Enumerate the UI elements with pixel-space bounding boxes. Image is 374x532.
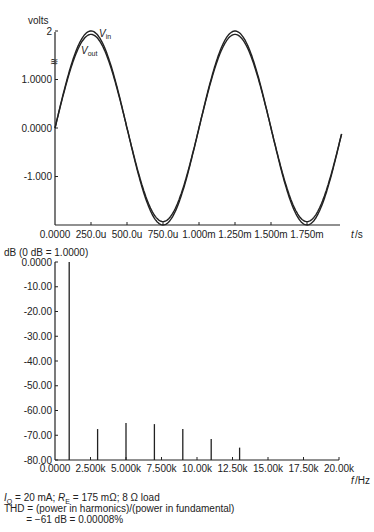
x-axis-title-unit: /Hz: [355, 475, 370, 486]
x-tick-label: 7.500k: [146, 463, 177, 474]
y-tick-label: 1.0000: [21, 74, 52, 85]
re-value: = 175 mΩ; 8 Ω load: [70, 492, 160, 503]
x-tick-label: 1.500m: [254, 229, 287, 240]
x-tick-label: 750.0u: [148, 229, 179, 240]
y-tick-label: -1.000: [24, 171, 53, 182]
x-tick-label: 1.750m: [290, 229, 323, 240]
x-tick-label: 2.500k: [75, 463, 106, 474]
y-tick-label: -40.00: [24, 356, 53, 367]
x-tick-label: 0.0000: [40, 463, 71, 474]
x-tick-label: 5.000k: [111, 463, 142, 474]
x-axis-title-unit: /s: [355, 229, 363, 240]
y-tick-label: 0.0000: [21, 257, 52, 268]
y-tick-label: -60.00: [24, 405, 53, 416]
y-axis-title: volts: [28, 15, 49, 26]
x-tick-label: 250.0u: [76, 229, 107, 240]
vin-label: Vin: [99, 28, 111, 40]
x-tick-label: 12.50k: [217, 463, 248, 474]
x-tick-label: 1.250m: [218, 229, 251, 240]
x-tick-label: 500.0u: [112, 229, 143, 240]
x-tick-label: 15.00k: [253, 463, 284, 474]
thd-definition: THD = (power in harmonics)/(power in fun…: [4, 503, 234, 514]
x-tick-label: 20.00k: [324, 463, 355, 474]
y-tick-label: 2: [46, 26, 52, 37]
y-tick-label: -30.00: [24, 331, 53, 342]
vout-label: Vout: [81, 45, 97, 57]
chart-canvas: 21.00000.0000-1.0000.0000250.0u500.0u750…: [0, 0, 374, 532]
x-tick-label: 0.0000: [40, 229, 71, 240]
waveform-v-out: [55, 34, 342, 221]
y-tick-label: -10.00: [24, 281, 53, 292]
y-tick-label: -70.00: [24, 430, 53, 441]
axis-marker: ≋: [50, 56, 58, 67]
y-tick-label: -20.00: [24, 306, 53, 317]
x-tick-label: 1.000m: [182, 229, 215, 240]
x-tick-label: 10.00k: [182, 463, 213, 474]
y-tick-label: 0.0000: [21, 123, 52, 134]
iq-value: = 20 mA;: [12, 492, 58, 503]
thd-value: = −61 dB = 0.00008%: [4, 514, 123, 525]
y-tick-label: -50.00: [24, 380, 53, 391]
x-tick-label: 17.50k: [288, 463, 319, 474]
